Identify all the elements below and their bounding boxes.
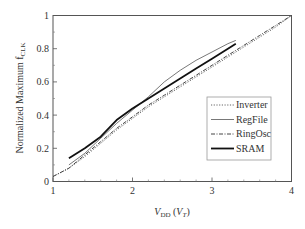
x-axis-ticks: 1234: [51, 178, 295, 196]
y-tick-label: 0.8: [37, 43, 50, 54]
y-tick-label: 0.4: [37, 110, 50, 121]
legend-label-regfile: RegFile: [236, 114, 268, 125]
chart: 1234 00.20.40.60.81 Normalized Maximum f…: [0, 0, 305, 229]
legend: InverterRegFileRingOscSRAM: [207, 97, 272, 160]
y-axis-title: Normalized Maximum fCLK: [14, 42, 27, 153]
x-tick-label: 2: [130, 185, 135, 196]
y-tick-label: 0.2: [37, 143, 50, 154]
y-tick-label: 0.6: [37, 76, 50, 87]
x-axis-title-sub: DD: [160, 211, 170, 219]
legend-label-inverter: Inverter: [236, 99, 268, 110]
svg-text:Normalized Maximum fCLK: Normalized Maximum fCLK: [14, 42, 27, 153]
x-tick-label: 3: [210, 185, 215, 196]
y-tick-label: 0: [44, 176, 49, 187]
legend-label-sram: SRAM: [236, 143, 264, 154]
x-tick-label: 1: [51, 185, 56, 196]
x-axis-title: VDD (VT): [154, 206, 189, 219]
legend-label-ringosc: RingOsc: [236, 128, 272, 139]
y-tick-label: 1: [44, 10, 49, 21]
y-axis-title-main: Normalized Maximum f: [14, 56, 25, 154]
x-tick-label: 4: [289, 185, 294, 196]
y-axis-ticks: 00.20.40.60.81: [37, 10, 58, 187]
y-axis-title-sub: CLK: [19, 42, 27, 56]
svg-text:VDD (VT): VDD (VT): [154, 206, 189, 219]
